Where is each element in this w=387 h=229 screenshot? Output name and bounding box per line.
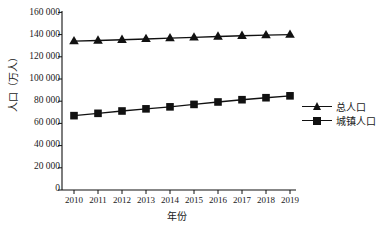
x-axis-title: 年份 <box>62 208 292 223</box>
x-axis-ticks <box>74 190 290 194</box>
legend-item-total-population: 总人口 <box>302 99 387 113</box>
data-point-marker <box>285 29 295 37</box>
data-point-marker <box>94 110 102 118</box>
square-marker-icon <box>302 114 332 126</box>
legend-label: 城镇人口 <box>336 113 376 128</box>
data-series-layer <box>69 29 295 119</box>
data-point-marker <box>213 31 223 39</box>
series-line-triangle <box>74 35 290 42</box>
data-point-marker <box>69 36 79 44</box>
data-point-marker <box>165 33 175 41</box>
data-point-marker <box>189 32 199 40</box>
data-point-marker <box>141 34 151 42</box>
population-line-chart: 人口（万人） 160 000 140 000 120 000 100 000 8… <box>0 0 387 229</box>
data-point-marker <box>166 103 174 111</box>
chart-legend: 总人口 城镇人口 <box>302 99 387 127</box>
y-axis-ticks <box>58 12 62 190</box>
data-point-marker <box>117 34 127 42</box>
triangle-marker-icon <box>302 100 332 112</box>
x-tick-label: 2019 <box>275 196 305 205</box>
legend-item-urban-population: 城镇人口 <box>302 113 387 127</box>
legend-label: 总人口 <box>336 99 366 114</box>
series-line-square <box>74 96 290 116</box>
data-point-marker <box>261 30 271 38</box>
data-point-marker <box>70 112 78 120</box>
data-point-marker <box>214 98 222 106</box>
data-point-marker <box>142 105 150 113</box>
data-point-marker <box>93 35 103 43</box>
data-point-marker <box>190 101 198 109</box>
data-point-marker <box>118 107 126 115</box>
data-point-marker <box>238 96 246 104</box>
data-point-marker <box>237 31 247 39</box>
data-point-marker <box>286 92 294 100</box>
data-point-marker <box>262 94 270 102</box>
